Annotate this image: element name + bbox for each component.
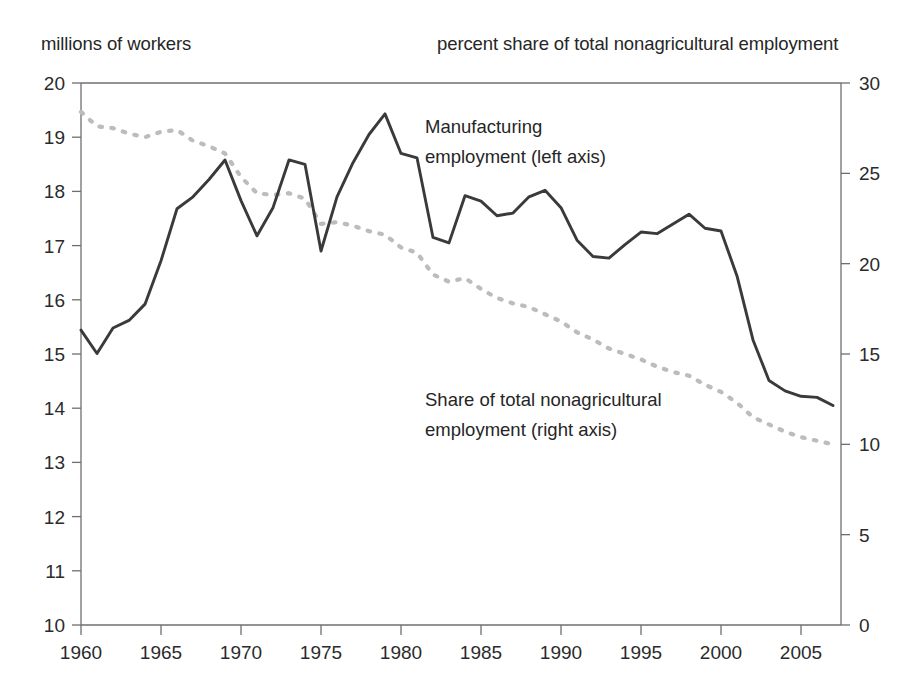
left-tick-12: 12 [44,507,65,528]
left-tick-15: 15 [44,344,65,365]
left-tick-17: 17 [44,236,65,257]
x-tick-1995: 1995 [620,642,662,663]
left-tick-11: 11 [45,561,65,582]
left-tick-13: 13 [44,452,65,473]
x-axis-tick-labels: 1960196519701975198019851990199520002005 [60,642,822,663]
left-axis-tick-labels: 1011121314151617181920 [44,73,66,636]
annotation-share-line-2: employment (right axis) [425,419,617,440]
x-tick-1970: 1970 [220,642,262,663]
x-tick-1990: 1990 [540,642,582,663]
right-tick-25: 25 [859,163,880,184]
right-tick-30: 30 [859,73,880,94]
right-tick-5: 5 [859,525,870,546]
left-tick-18: 18 [44,181,65,202]
x-tick-1985: 1985 [460,642,502,663]
line-chart-plot: 1011121314151617181920 051015202530 1960… [0,0,916,697]
right-tick-10: 10 [859,434,880,455]
x-tick-2000: 2000 [700,642,742,663]
left-tick-10: 10 [44,615,65,636]
left-tick-20: 20 [44,73,65,94]
right-axis-tick-labels: 051015202530 [859,73,880,636]
chart-figure: millions of workers percent share of tot… [0,0,916,697]
x-tick-2005: 2005 [780,642,822,663]
right-tick-20: 20 [859,254,880,275]
right-tick-0: 0 [859,615,870,636]
left-tick-16: 16 [44,290,65,311]
x-tick-1960: 1960 [60,642,102,663]
left-tick-14: 14 [44,398,66,419]
annotation-manufacturing-line-1: Manufacturing [425,116,542,137]
x-tick-1980: 1980 [380,642,422,663]
left-tick-19: 19 [44,127,65,148]
x-tick-1965: 1965 [140,642,182,663]
x-tick-1975: 1975 [300,642,342,663]
annotation-share-line-1: Share of total nonagricultural [425,389,662,410]
right-tick-15: 15 [859,344,880,365]
annotation-manufacturing-line-2: employment (left axis) [425,146,606,167]
